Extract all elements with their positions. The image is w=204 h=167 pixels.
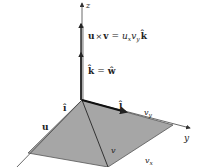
z-axis-label: z [85,1,91,10]
j-hat-label: ĵ [118,100,123,110]
cross-product-diagram: z y u×v=uxvyk̂ k̂=ŵ î u ĵ vy v vx [0,0,204,167]
u-vector-label: u [42,122,49,132]
diagram-canvas: z y u×v=uxvyk̂ k̂=ŵ î u ĵ vy v vx [0,0,204,167]
v-vector-label: v [111,146,116,155]
v-x-label: vx [145,156,154,166]
y-axis-label: y [183,133,190,143]
cross-product-equation: u×v=uxvyk̂ [88,29,148,43]
i-hat-label: î [63,103,67,113]
k-equals-w-equation: k̂=ŵ [88,64,116,76]
